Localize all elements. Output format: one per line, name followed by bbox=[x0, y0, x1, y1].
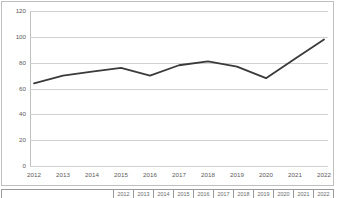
chart-container: 020406080100120 201220132014201520162017… bbox=[1, 1, 334, 186]
table-header-cell: 2015 bbox=[174, 190, 194, 198]
table-header-cell: 2017 bbox=[214, 190, 234, 198]
x-axis-tick-label: 2016 bbox=[143, 172, 157, 178]
y-axis-tick-label: 100 bbox=[16, 34, 26, 40]
line-series-chart bbox=[30, 11, 328, 166]
table-header-cell: 2016 bbox=[194, 190, 214, 198]
x-axis-tick-label: 2013 bbox=[56, 172, 70, 178]
x-axis-tick-label: 2019 bbox=[230, 172, 244, 178]
series-line bbox=[34, 39, 324, 83]
x-axis-tick-label: 2018 bbox=[201, 172, 215, 178]
gridline bbox=[30, 166, 328, 167]
table-header-cell: 2018 bbox=[234, 190, 254, 198]
x-axis-tick-label: 2015 bbox=[114, 172, 128, 178]
x-axis-tick-label: 2017 bbox=[172, 172, 186, 178]
y-axis-tick-label: 60 bbox=[19, 85, 26, 91]
y-axis-tick-label: 20 bbox=[19, 137, 26, 143]
table-header-cell: 2013 bbox=[134, 190, 154, 198]
table-header-cell: 2014 bbox=[154, 190, 174, 198]
table-header-cell: 2021 bbox=[294, 190, 314, 198]
x-axis-tick-label: 2020 bbox=[259, 172, 273, 178]
y-axis-tick-label: 80 bbox=[19, 60, 26, 66]
table-header-cell: 2012 bbox=[114, 190, 134, 198]
table-header-cell: 2020 bbox=[274, 190, 294, 198]
table-header-cell: 2019 bbox=[254, 190, 274, 198]
plot-area: 020406080100120 201220132014201520162017… bbox=[30, 11, 328, 166]
table-header-cell: 2022 bbox=[314, 190, 333, 198]
x-axis-tick-label: 2014 bbox=[85, 172, 99, 178]
table-header-strip: 2012201320142015201620172018201920202021… bbox=[1, 189, 334, 198]
y-axis-tick-label: 120 bbox=[16, 8, 26, 14]
table-row-label bbox=[2, 190, 114, 198]
chart-plot-wrapper: 020406080100120 201220132014201520162017… bbox=[2, 2, 333, 185]
x-axis-tick-label: 2012 bbox=[27, 172, 41, 178]
x-axis-tick-label: 2022 bbox=[317, 172, 331, 178]
y-axis-tick-label: 0 bbox=[23, 163, 26, 169]
y-axis-tick-label: 40 bbox=[19, 111, 26, 117]
x-axis-tick-label: 2021 bbox=[288, 172, 302, 178]
screenshot-root: 020406080100120 201220132014201520162017… bbox=[0, 0, 337, 198]
